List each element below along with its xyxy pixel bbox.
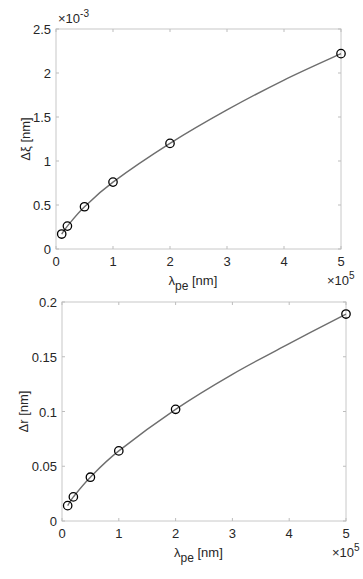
y-tick-label: 1.5 [33, 110, 51, 125]
x-tick-label: 3 [223, 254, 230, 269]
x-tick-label: 4 [286, 526, 293, 541]
y-tick-label: 0 [44, 242, 51, 257]
y-tick-label: 0.05 [32, 459, 57, 474]
y-tick-label: 2 [44, 66, 51, 81]
x-tick-label: 5 [342, 526, 349, 541]
y-tick-label: 0.1 [39, 405, 57, 420]
plot-1: 01234500.511.522.5λpe [nm]×105×10-3Δξ [n… [18, 8, 355, 293]
y-tick-label: 0 [50, 514, 57, 529]
x-tick-label: 1 [109, 254, 116, 269]
x-tick-label: 0 [52, 254, 59, 269]
x-tick-label: 3 [229, 526, 236, 541]
y-tick-label: 0.5 [33, 198, 51, 213]
y-tick-label: 2.5 [33, 22, 51, 37]
y-axis-label: Δξ [nm] [18, 117, 33, 160]
x-tick-label: 2 [166, 254, 173, 269]
fit-curve [68, 314, 346, 506]
x-multiplier: ×105 [332, 542, 360, 560]
plot-2: 01234500.050.10.150.2λpe [nm]×105Δr [nm] [16, 295, 360, 565]
x-axis-label: λpe [nm] [174, 545, 223, 565]
x-multiplier: ×105 [327, 270, 355, 288]
x-tick-label: 0 [58, 526, 65, 541]
y-tick-label: 1 [44, 154, 51, 169]
x-tick-label: 4 [280, 254, 287, 269]
fit-curve [62, 54, 341, 234]
x-tick-label: 2 [172, 526, 179, 541]
y-tick-label: 0.2 [39, 295, 57, 310]
figure: 01234500.511.522.5λpe [nm]×105×10-3Δξ [n… [0, 0, 363, 579]
y-tick-label: 0.15 [32, 350, 57, 365]
x-tick-label: 1 [115, 526, 122, 541]
x-axis-label: λpe [nm] [169, 273, 218, 293]
x-tick-label: 5 [337, 254, 344, 269]
axes-box [56, 29, 341, 249]
y-axis-label: Δr [nm] [16, 391, 31, 433]
axes-box [62, 302, 346, 521]
y-multiplier: ×10-3 [58, 8, 89, 26]
